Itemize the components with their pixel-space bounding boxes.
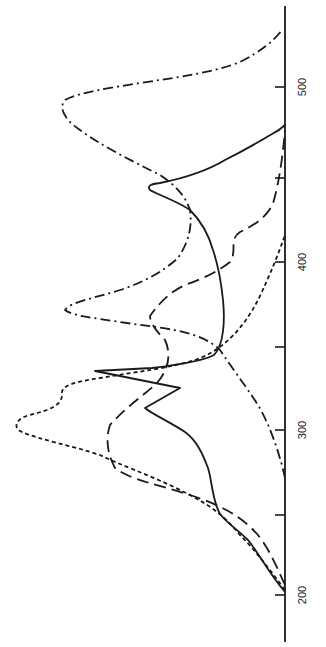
tick-labels: 200 300 400 500	[296, 78, 308, 604]
axis-ticks	[275, 87, 285, 595]
tick-label-300: 300	[296, 421, 308, 439]
series-solid	[95, 125, 285, 592]
tick-label-400: 400	[296, 253, 308, 271]
series-dash-dot	[62, 30, 285, 478]
series-long-dash	[108, 130, 285, 585]
spectrum-chart: 200 300 400 500	[0, 0, 326, 647]
tick-label-200: 200	[296, 586, 308, 604]
tick-label-500: 500	[296, 78, 308, 96]
